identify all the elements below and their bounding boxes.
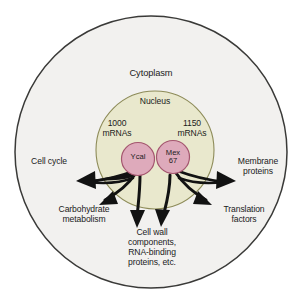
mrna-export-diagram: Cytoplasm Nucleus 1000 mRNAs 1150 mRNAs … xyxy=(0,0,302,297)
node-yra1-circle xyxy=(122,143,155,176)
node-mex67-circle xyxy=(157,141,190,174)
diagram-canvas xyxy=(0,0,302,297)
nucleus-circle xyxy=(96,91,214,209)
